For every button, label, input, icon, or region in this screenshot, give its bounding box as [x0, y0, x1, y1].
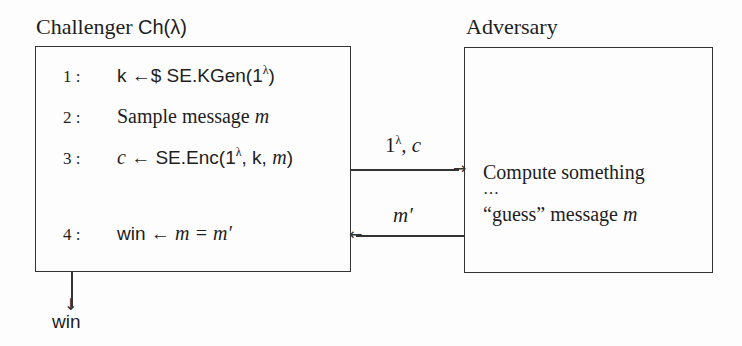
step-number: 4 : — [63, 225, 117, 245]
arrow-to-challenger-line — [356, 235, 464, 237]
adversary-line-guess: “guess” message m — [483, 203, 637, 226]
step-text: win ← — [117, 223, 175, 244]
challenger-title: Challenger Ch(λ) — [36, 14, 187, 40]
variable-c: c — [117, 146, 126, 168]
step-text: ) — [287, 147, 293, 168]
arrow-right-icon: → — [453, 161, 466, 177]
challenger-label: Challenger — [36, 14, 133, 39]
step-1: 1 :k ←$ SE.KGen(1λ) — [63, 65, 275, 87]
message-to-adversary: 1λ, c — [385, 133, 421, 158]
step-text: ) — [269, 65, 275, 86]
challenger-fn: Ch(λ) — [138, 16, 187, 38]
variable-m: m — [623, 203, 637, 225]
win-output: win — [52, 311, 81, 333]
msg-base: 1 — [385, 133, 396, 157]
msg-rest: , c — [401, 133, 421, 157]
adversary-line-ellipsis: … — [483, 180, 499, 198]
variable-m: m — [272, 146, 286, 168]
adversary-title: Adversary — [466, 14, 558, 40]
step-text: , k, — [242, 147, 273, 168]
step-number: 3 : — [63, 149, 117, 169]
variable-m: m — [255, 105, 269, 127]
adversary-box — [464, 47, 713, 273]
step-number: 2 : — [63, 108, 117, 128]
message-to-challenger: m′ — [393, 203, 413, 228]
guess-text: “guess” message — [483, 203, 623, 225]
step-text: k ←$ SE.KGen(1 — [117, 65, 263, 86]
step-3: 3 :c ← SE.Enc(1λ, k, m) — [63, 146, 293, 169]
step-2: 2 :Sample message m — [63, 105, 269, 128]
step-number: 1 : — [63, 67, 117, 87]
step-4: 4 :win ← m = m′ — [63, 222, 232, 245]
win-condition: m = m′ — [175, 222, 232, 244]
arrow-left-icon: ← — [349, 227, 362, 243]
arrow-to-adversary-line — [351, 169, 459, 171]
adversary-line-compute: Compute something — [483, 161, 645, 184]
step-text: Sample message — [117, 105, 255, 127]
step-text: ← SE.Enc(1 — [126, 147, 236, 168]
